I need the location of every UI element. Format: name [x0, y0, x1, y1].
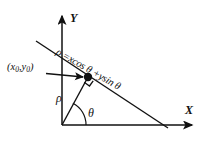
label-leader-arrow: [46, 74, 83, 78]
x-axis-label: X: [185, 104, 193, 116]
point-label-sub-1: 0: [15, 65, 19, 74]
figure-canvas: Y X (x0,y0) ρ θ ρ =xcos θ +ysin θ: [0, 0, 206, 142]
rho-segment: [62, 77, 88, 125]
theta-label: θ: [88, 107, 94, 119]
point-coordinate-label: (x0,y0): [7, 62, 33, 73]
theta-arc: [73, 103, 86, 125]
y-axis-label: Y: [70, 12, 77, 24]
point-label-sub-2: 0: [26, 65, 30, 74]
rho-label: ρ: [56, 92, 62, 104]
point-label-prefix: (x: [7, 61, 15, 72]
point-label-suffix: ): [30, 61, 34, 72]
